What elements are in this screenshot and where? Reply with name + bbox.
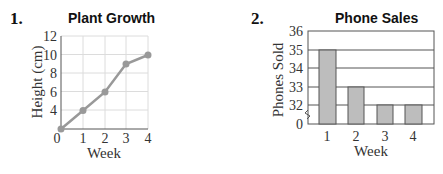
y-tick: 12 xyxy=(43,29,57,44)
line-chart-grid xyxy=(61,36,148,129)
y-axis-label: Phones Sold xyxy=(270,42,286,117)
bar-week-4 xyxy=(405,105,422,124)
x-tick: 1 xyxy=(80,131,87,146)
line-chart-plant-growth: 12 10 8 6 4 0 1 2 3 4 Week Height (cm) xyxy=(29,29,152,161)
x-tick: 0 xyxy=(54,131,61,146)
y-tick: 4 xyxy=(50,103,57,118)
y-tick: 6 xyxy=(50,85,57,100)
y-tick: 33 xyxy=(289,80,303,95)
x-tick: 4 xyxy=(145,131,152,146)
x-tick: 3 xyxy=(382,129,389,144)
y-tick: 10 xyxy=(43,48,57,63)
x-axis-label: Week xyxy=(87,145,121,161)
y-tick: 8 xyxy=(50,66,57,81)
x-tick: 2 xyxy=(102,131,109,146)
y-tick: 34 xyxy=(289,61,303,76)
y-axis-label: Height (cm) xyxy=(29,46,46,119)
bar-chart-phone-sales: 36 35 34 33 32 0 1 2 3 4 Week Phones Sol… xyxy=(270,24,434,159)
y-tick: 35 xyxy=(289,43,303,58)
bar-week-3 xyxy=(377,105,393,124)
x-tick: 3 xyxy=(123,131,130,146)
y-tick: 0 xyxy=(296,117,303,132)
y-tick: 32 xyxy=(289,98,303,113)
x-tick: 2 xyxy=(353,129,360,144)
bar-week-1 xyxy=(319,50,336,124)
y-tick: 36 xyxy=(289,24,303,39)
bar-week-2 xyxy=(348,87,364,124)
x-axis-label: Week xyxy=(354,143,388,159)
x-tick: 4 xyxy=(410,129,417,144)
x-tick: 1 xyxy=(324,129,331,144)
charts-canvas: 12 10 8 6 4 0 1 2 3 4 Week Height (cm) xyxy=(0,0,443,174)
